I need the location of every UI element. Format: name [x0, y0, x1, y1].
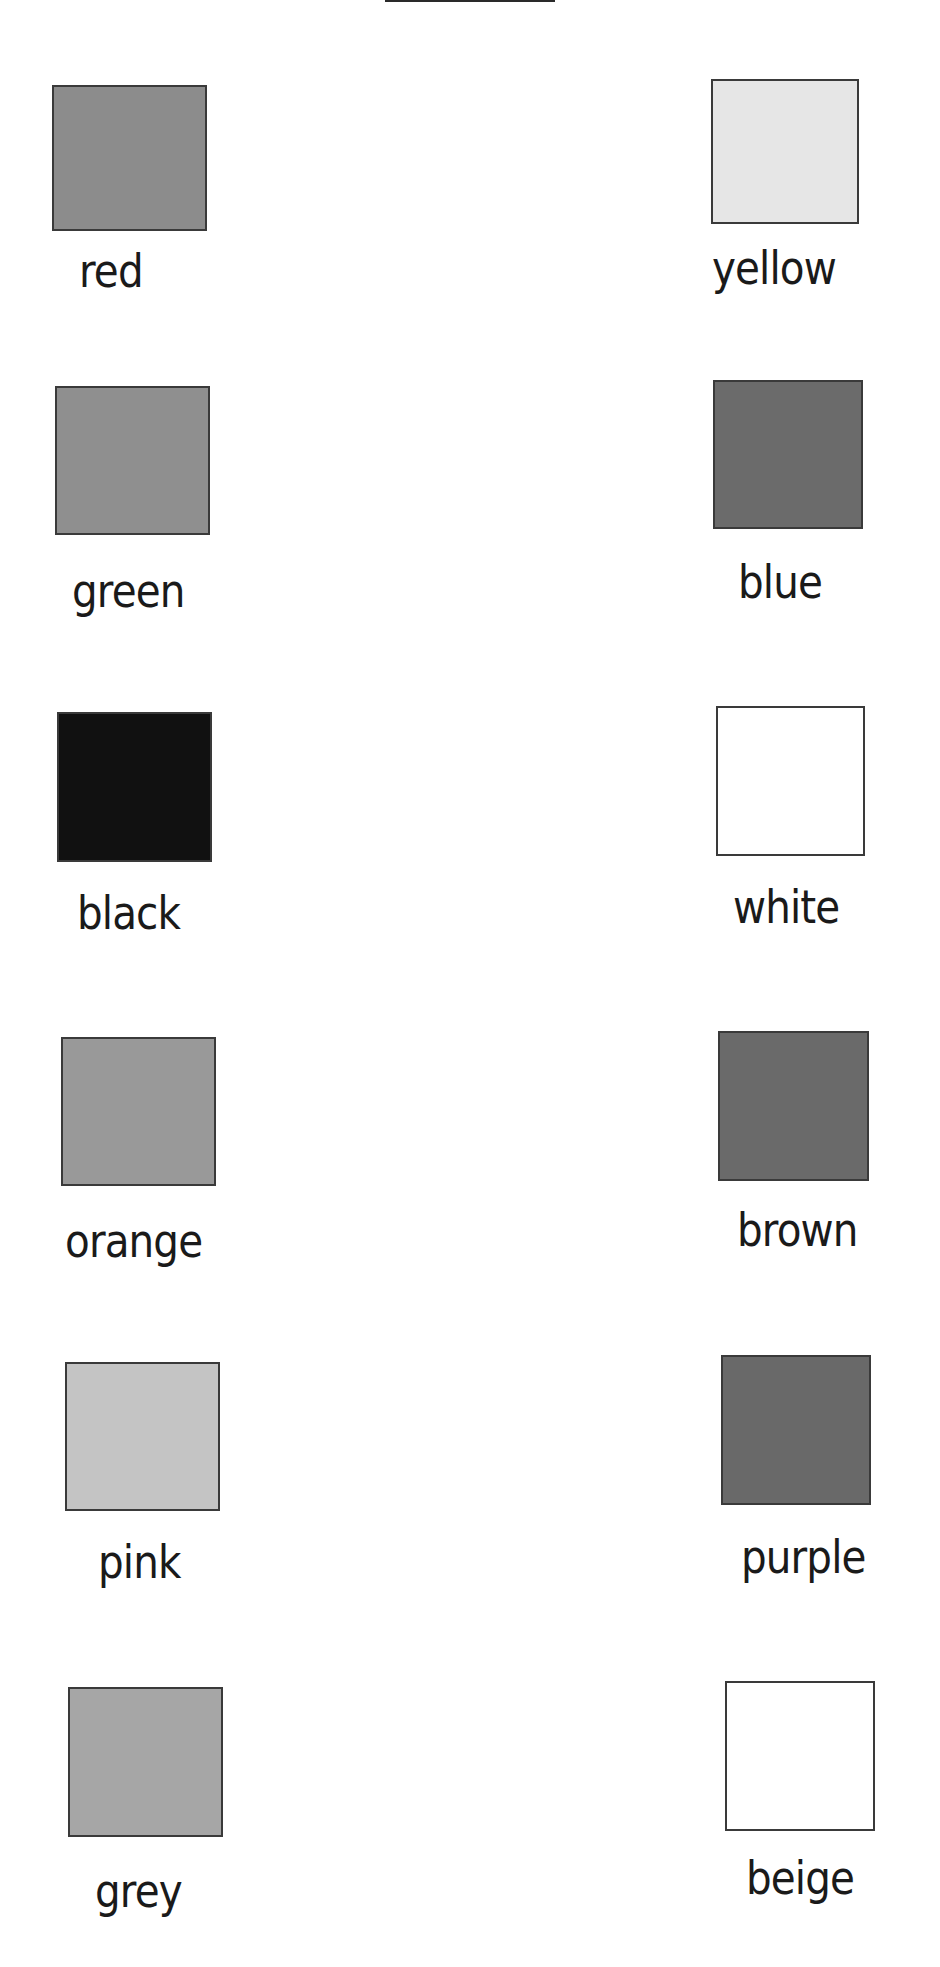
color-label-beige: beige — [746, 1855, 854, 1901]
color-swatch-black — [57, 712, 212, 862]
color-label-purple: purple — [741, 1534, 866, 1580]
color-swatch-red — [52, 85, 207, 231]
color-swatch-orange — [61, 1037, 216, 1186]
color-swatch-grey — [68, 1687, 223, 1837]
color-swatch-blue — [713, 380, 863, 529]
color-label-white: white — [733, 884, 839, 930]
color-label-yellow: yellow — [712, 245, 836, 291]
color-label-grey: grey — [95, 1868, 182, 1914]
color-label-blue: blue — [738, 559, 822, 605]
title-underline — [385, 0, 555, 2]
color-swatch-brown — [718, 1031, 869, 1181]
color-swatch-yellow — [711, 79, 859, 224]
color-swatch-pink — [65, 1362, 220, 1511]
color-label-brown: brown — [737, 1207, 858, 1253]
color-label-black: black — [77, 890, 180, 936]
color-swatch-white — [716, 706, 865, 856]
color-label-green: green — [72, 568, 185, 614]
color-label-pink: pink — [98, 1539, 181, 1585]
color-label-red: red — [79, 248, 143, 294]
color-swatch-purple — [721, 1355, 871, 1505]
color-label-orange: orange — [65, 1218, 202, 1264]
color-swatch-green — [55, 386, 210, 535]
color-swatch-beige — [725, 1681, 875, 1831]
